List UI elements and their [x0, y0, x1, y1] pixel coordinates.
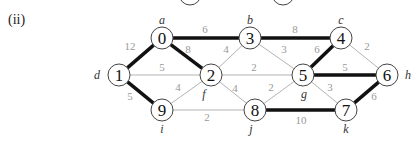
edge-3-5 — [259, 44, 294, 68]
edge-weight: 6 — [314, 43, 320, 55]
edge-weight: 2 — [268, 81, 274, 93]
node-number: 1 — [115, 66, 124, 85]
edge-5-7 — [312, 82, 338, 103]
edge-weight: 4 — [232, 82, 238, 94]
edge-weight: 6 — [371, 90, 377, 102]
node-letter: j — [247, 122, 253, 136]
node-letter: c — [338, 13, 344, 27]
edge-weight: 4 — [223, 43, 229, 55]
node-number: 7 — [342, 101, 351, 120]
edge-weight: 3 — [327, 81, 333, 93]
edge-weight: 8 — [292, 23, 298, 35]
node-letter: g — [301, 87, 307, 101]
partial-node — [272, 0, 294, 5]
node-letter: a — [159, 13, 165, 27]
node-letter: d — [94, 68, 101, 82]
edge-weight: 3 — [281, 43, 287, 55]
edge-weight: 5 — [342, 61, 348, 73]
edge-weight: 6 — [202, 23, 208, 35]
node-number: 2 — [207, 66, 216, 85]
node-letter: h — [405, 68, 411, 82]
edge-weight: 12 — [125, 40, 136, 52]
graph-diagram: 6812843625255442362100a3b4c1d2f5g6h9i8j7… — [0, 0, 416, 143]
node-number: 3 — [246, 29, 255, 48]
edge-weight: 2 — [364, 40, 370, 52]
node-letter: b — [247, 13, 253, 27]
edge-weight: 10 — [296, 114, 308, 126]
node-letter: i — [160, 122, 163, 136]
node-letter: k — [343, 122, 349, 136]
node-number: 9 — [158, 101, 167, 120]
edge-weight: 2 — [251, 61, 257, 73]
edge-weight: 5 — [127, 90, 133, 102]
node-number: 6 — [383, 66, 392, 85]
edge-weight: 2 — [204, 111, 210, 123]
node-letter: f — [202, 87, 207, 101]
edge-weight: 5 — [159, 61, 165, 73]
edge-weight: 4 — [175, 81, 181, 93]
node-number: 4 — [337, 29, 346, 48]
node-number: 5 — [299, 66, 308, 85]
node-number: 0 — [158, 29, 167, 48]
partial-node — [179, 0, 201, 5]
node-number: 8 — [251, 101, 260, 120]
edge-weight: 8 — [185, 43, 191, 55]
